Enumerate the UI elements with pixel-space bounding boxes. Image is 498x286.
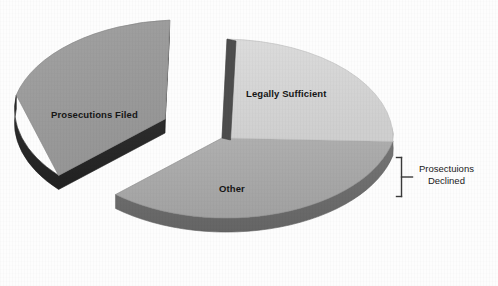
slice-label-legally-sufficient: Legally Sufficient [246,88,326,99]
annotation-label-prosecutions-declined: Prosectuions Declined [419,163,474,186]
pie-chart-figure: Prosecutions Filed Legally Sufficient Ot… [0,0,498,286]
pie-chart-canvas [0,0,498,286]
annotation-label-line-1: Prosectuions [419,163,474,175]
slice-prosecutions-filed [15,20,170,189]
slice-other-top [116,138,393,218]
annotation-label-line-2: Declined [419,175,474,187]
slice-label-other: Other [219,183,245,194]
prosecutions-declined-bracket [397,158,413,197]
slice-label-prosecutions-filed: Prosecutions Filed [51,109,138,120]
